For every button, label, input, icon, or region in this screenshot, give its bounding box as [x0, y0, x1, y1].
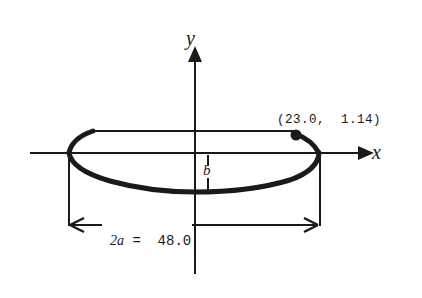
semi-minor-label: b: [203, 163, 211, 178]
major-axis-variable: 2a: [110, 233, 124, 248]
x-axis-label: x: [372, 142, 381, 162]
major-axis-value: = 48.0: [124, 233, 191, 249]
ellipse-diagram: [0, 0, 422, 298]
point-marker: [291, 130, 302, 141]
x-axis: [30, 146, 374, 160]
major-axis-label: 2a = 48.0: [103, 217, 191, 249]
point-label: (23.0, 1.14): [277, 113, 381, 127]
y-axis-label: y: [186, 28, 195, 48]
